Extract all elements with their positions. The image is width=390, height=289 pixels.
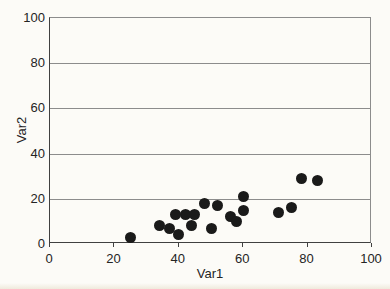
data-point (296, 173, 307, 184)
y-tick-label: 0 (38, 237, 45, 250)
data-point (212, 200, 223, 211)
scatter-figure: Var2 020406080100020406080100 Var1 (0, 0, 390, 289)
data-point (286, 202, 297, 213)
x-tick-label: 60 (235, 252, 249, 265)
x-axis-title: Var1 (197, 266, 224, 281)
y-tick-label: 60 (31, 101, 45, 114)
data-point (125, 232, 136, 243)
x-tick-mark (307, 243, 308, 247)
x-tick-mark (242, 243, 243, 247)
x-tick-mark (49, 243, 50, 247)
y-tick-label: 80 (31, 56, 45, 69)
plot-area (49, 17, 371, 243)
data-point (238, 191, 249, 202)
data-point (231, 216, 242, 227)
gridline (50, 108, 370, 109)
gridline (50, 199, 370, 200)
x-tick-mark (178, 243, 179, 247)
x-tick-label: 80 (299, 252, 313, 265)
x-tick-mark (113, 243, 114, 247)
y-tick-label: 40 (31, 146, 45, 159)
y-tick-label: 100 (23, 11, 45, 24)
x-tick-label: 20 (106, 252, 120, 265)
data-point (186, 220, 197, 231)
data-point (312, 175, 323, 186)
y-axis-title: Var2 (14, 117, 29, 144)
data-point (273, 207, 284, 218)
data-point (206, 223, 217, 234)
gridline (50, 154, 370, 155)
x-tick-mark (371, 243, 372, 247)
x-tick-label: 100 (360, 252, 382, 265)
x-tick-label: 40 (171, 252, 185, 265)
data-point (238, 205, 249, 216)
data-point (173, 229, 184, 240)
y-tick-label: 20 (31, 191, 45, 204)
data-point (189, 209, 200, 220)
gridline (50, 63, 370, 64)
data-point (199, 198, 210, 209)
x-tick-label: 0 (45, 252, 52, 265)
